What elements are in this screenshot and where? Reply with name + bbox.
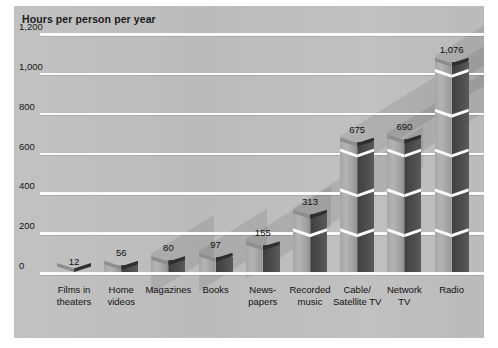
bar bbox=[199, 253, 233, 272]
bar bbox=[246, 241, 280, 272]
bar-corner-edge bbox=[310, 214, 311, 272]
bar-face-right bbox=[310, 214, 327, 272]
y-axis-tick-label: 400 bbox=[19, 180, 59, 191]
gridline bbox=[40, 33, 484, 36]
bar-body bbox=[340, 142, 374, 272]
bar-body bbox=[387, 139, 421, 272]
bar-corner-edge bbox=[404, 139, 405, 272]
gridline bbox=[40, 73, 484, 76]
gridline bbox=[40, 113, 484, 116]
x-axis-category-label: Radio bbox=[424, 284, 480, 296]
bar bbox=[293, 210, 327, 272]
bar-value-label: 313 bbox=[280, 196, 340, 207]
bar-face-right bbox=[357, 142, 374, 272]
gridline bbox=[40, 272, 484, 275]
bar-value-label: 1,076 bbox=[422, 44, 482, 55]
bar-corner-edge bbox=[451, 62, 452, 272]
bar-face-left bbox=[435, 62, 452, 272]
y-axis-tick-label: 1,200 bbox=[19, 21, 59, 32]
plot-area: 02004006008001,0001,20012Films in theate… bbox=[14, 6, 484, 338]
bar bbox=[151, 256, 185, 272]
bar-value-label: 690 bbox=[374, 121, 434, 132]
bar-face-right bbox=[404, 139, 421, 272]
y-axis-tick-label: 800 bbox=[19, 101, 59, 112]
bar bbox=[104, 261, 138, 272]
bar-value-label: 97 bbox=[186, 239, 246, 250]
chart-panel: Hours per person per year 02004006008001… bbox=[14, 6, 484, 338]
bar-value-label: 155 bbox=[233, 227, 293, 238]
bar bbox=[340, 138, 374, 272]
bar-body bbox=[293, 214, 327, 272]
bar-face-left bbox=[293, 214, 310, 272]
bar-face-left bbox=[387, 139, 404, 272]
bar-corner-edge bbox=[357, 142, 358, 272]
y-axis-tick-label: 200 bbox=[19, 220, 59, 231]
bar bbox=[387, 135, 421, 272]
bar bbox=[435, 58, 469, 272]
bar-face-right bbox=[452, 62, 469, 272]
bar-face-left bbox=[340, 142, 357, 272]
y-axis-tick-label: 600 bbox=[19, 141, 59, 152]
bar-body bbox=[435, 62, 469, 272]
y-axis-tick-label: 1,000 bbox=[19, 61, 59, 72]
